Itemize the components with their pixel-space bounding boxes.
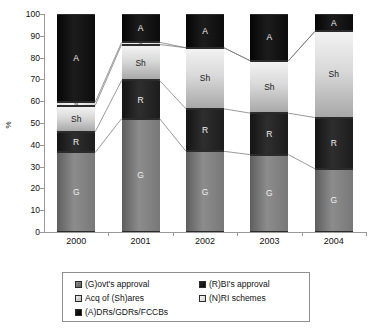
- segment-label: G: [137, 170, 144, 180]
- x-tick-label-2001: 2001: [111, 236, 171, 246]
- legend-swatch-shares-icon: [75, 295, 82, 302]
- y-tick-mark: [40, 210, 44, 211]
- bar-segment-A[interactable]: A: [315, 14, 353, 31]
- y-tick-mark: [40, 79, 44, 80]
- y-tick-label: 20: [18, 184, 40, 192]
- y-tick-label: 50: [18, 119, 40, 127]
- x-tick-label-2003: 2003: [239, 236, 299, 246]
- y-axis-tick-labels: 0102030405060708090100: [14, 0, 40, 232]
- bar-segment-R[interactable]: R: [57, 132, 95, 153]
- stacked-bar-chart: % 0102030405060708090100 GRShNAGRShNAGRS…: [0, 0, 372, 330]
- y-tick-label: 60: [18, 97, 40, 105]
- segment-label: R: [138, 95, 144, 105]
- bar-segment-A[interactable]: A: [122, 14, 160, 42]
- y-tick-label: 90: [18, 32, 40, 40]
- y-tick-label: 30: [18, 163, 40, 171]
- legend-label: (R)BI's approval: [209, 279, 270, 289]
- segment-label: N: [139, 42, 143, 44]
- y-tick-mark: [40, 188, 44, 189]
- segment-label: G: [73, 187, 80, 197]
- legend-swatch-rbi-icon: [199, 281, 206, 288]
- segment-label: A: [138, 23, 144, 33]
- x-tick-label-2004: 2004: [304, 236, 364, 246]
- x-tick-mark: [237, 232, 238, 236]
- legend-label: Acq of (Sh)ares: [85, 293, 144, 303]
- bar-2002[interactable]: GRShA: [186, 14, 224, 232]
- bar-segment-N[interactable]: N: [122, 42, 160, 44]
- x-tick-label-2000: 2000: [46, 236, 106, 246]
- legend-label: (G)ovt's approval: [85, 279, 149, 289]
- bar-segment-G[interactable]: G: [57, 152, 95, 232]
- legend-item-shares[interactable]: Acq of (Sh)ares: [75, 293, 144, 303]
- legend-item-adr[interactable]: (A)DRs/GDRs/FCCBs: [75, 307, 168, 317]
- segment-label: A: [73, 53, 79, 63]
- bar-segment-Sh[interactable]: Sh: [122, 45, 160, 81]
- y-tick-mark: [40, 145, 44, 146]
- bar-segment-Sh[interactable]: Sh: [250, 61, 288, 113]
- segment-label: A: [331, 18, 337, 28]
- bar-segment-G[interactable]: G: [122, 119, 160, 232]
- segment-label: G: [266, 188, 273, 198]
- legend-label: (N)RI schemes: [209, 293, 266, 303]
- legend-item-rbi[interactable]: (R)BI's approval: [199, 279, 270, 289]
- segment-label: Sh: [135, 58, 145, 68]
- segment-label: N: [74, 102, 78, 105]
- bar-2000[interactable]: GRShNA: [57, 14, 95, 232]
- legend-item-nri[interactable]: (N)RI schemes: [199, 293, 266, 303]
- y-tick-mark: [40, 101, 44, 102]
- y-tick-mark: [40, 167, 44, 168]
- y-tick-mark: [40, 36, 44, 37]
- legend-swatch-govt-icon: [75, 281, 82, 288]
- segment-label: R: [266, 129, 272, 139]
- bar-segment-A[interactable]: A: [186, 14, 224, 48]
- x-tick-mark: [366, 232, 367, 236]
- y-tick-mark: [40, 123, 44, 124]
- segment-label: G: [202, 187, 209, 197]
- x-tick-mark: [108, 232, 109, 236]
- bar-segment-N[interactable]: N: [57, 102, 95, 105]
- bars-layer: GRShNAGRShNAGRShAGRShAGRShA: [44, 14, 366, 232]
- y-tick-mark: [40, 232, 44, 233]
- segment-label: Sh: [200, 73, 210, 83]
- x-axis-line: [44, 232, 366, 233]
- x-tick-label-2002: 2002: [175, 236, 235, 246]
- bar-segment-R[interactable]: R: [122, 80, 160, 118]
- segment-label: Sh: [264, 82, 274, 92]
- x-tick-mark: [173, 232, 174, 236]
- y-tick-mark: [40, 58, 44, 59]
- legend: (G)ovt's approval(R)BI's approvalAcq of …: [62, 272, 310, 322]
- bar-segment-Sh[interactable]: Sh: [57, 106, 95, 132]
- bar-segment-A[interactable]: A: [57, 14, 95, 102]
- bar-segment-G[interactable]: G: [186, 151, 224, 232]
- bar-segment-Sh[interactable]: Sh: [315, 31, 353, 117]
- y-tick-label: 0: [18, 228, 40, 236]
- plot-area: % 0102030405060708090100 GRShNAGRShNAGRS…: [0, 0, 372, 262]
- x-tick-mark: [302, 232, 303, 236]
- legend-label: (A)DRs/GDRs/FCCBs: [85, 307, 168, 317]
- bar-segment-R[interactable]: R: [250, 113, 288, 154]
- x-axis-tick-labels: 20002001200220032004: [44, 236, 366, 252]
- segment-label: R: [202, 125, 208, 135]
- segment-label: Sh: [71, 114, 81, 124]
- y-tick-label: 10: [18, 206, 40, 214]
- bar-segment-A[interactable]: A: [250, 14, 288, 61]
- segment-label: A: [202, 26, 208, 36]
- bar-segment-Sh[interactable]: Sh: [186, 48, 224, 109]
- y-tick-label: 100: [18, 10, 40, 18]
- bar-2001[interactable]: GRShNA: [122, 14, 160, 232]
- y-tick-label: 80: [18, 54, 40, 62]
- bar-segment-R[interactable]: R: [186, 109, 224, 152]
- legend-item-govt[interactable]: (G)ovt's approval: [75, 279, 149, 289]
- segment-label: A: [267, 32, 273, 42]
- segment-label: Sh: [329, 69, 339, 79]
- bar-segment-R[interactable]: R: [315, 118, 353, 169]
- legend-swatch-adr-icon: [75, 309, 82, 316]
- legend-swatch-nri-icon: [199, 295, 206, 302]
- y-tick-label: 40: [18, 141, 40, 149]
- segment-label: R: [73, 137, 79, 147]
- bar-2004[interactable]: GRShA: [315, 14, 353, 232]
- bar-segment-G[interactable]: G: [315, 169, 353, 232]
- bar-segment-G[interactable]: G: [250, 155, 288, 232]
- y-tick-mark: [40, 14, 44, 15]
- bar-2003[interactable]: GRShA: [250, 14, 288, 232]
